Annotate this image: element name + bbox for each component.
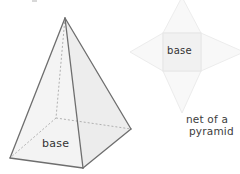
net-triangle-left-icon — [130, 33, 163, 71]
pyramid-base-label: base — [42, 138, 69, 151]
figure-svg — [0, 0, 240, 174]
net-caption: net of a pyramid — [186, 113, 234, 138]
net-triangle-bottom-icon — [163, 71, 201, 113]
pyramid-group — [10, 18, 131, 168]
net-triangle-right-icon — [201, 33, 240, 71]
net-base-label: base — [167, 45, 192, 57]
top-crop-artifact — [32, 0, 37, 2]
geometry-figure: base base net of a pyramid — [0, 0, 240, 174]
net-caption-line-1: net of a — [186, 113, 234, 125]
net-caption-line-2: pyramid — [189, 125, 234, 137]
net-triangle-top-icon — [163, 0, 201, 33]
